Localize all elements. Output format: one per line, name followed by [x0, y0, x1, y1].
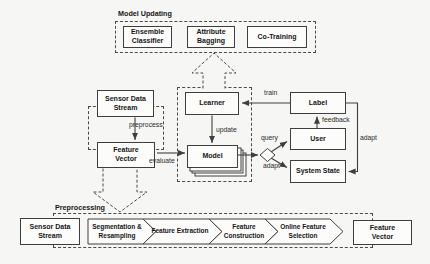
adapt-right-label: adapt	[360, 134, 377, 141]
flow-diagram: Model Updating Preprocessing Ensemble Cl…	[0, 0, 430, 264]
evaluate-label: evaluate	[149, 157, 175, 164]
query-arrow	[271, 142, 287, 153]
stage-label-construction: Feature Construction	[216, 219, 272, 244]
stage-label-segmentation: Segmentation & Resampling	[90, 219, 144, 244]
query-label: query	[261, 134, 278, 141]
adapt-right-line	[346, 103, 358, 172]
model-updating-flow-arrow	[192, 53, 236, 89]
feedback-label: feedback	[322, 116, 350, 123]
sensor-data-stream-bottom-box: Sensor Data Stream	[20, 218, 80, 245]
update-label: update	[216, 126, 237, 133]
learner-box: Learner	[185, 92, 239, 115]
model-updating-title: Model Updating	[118, 9, 172, 18]
co-training-box: Co-Training	[247, 26, 307, 48]
system-state-box: System State	[290, 160, 346, 183]
preprocessing-title: Preprocessing	[55, 203, 105, 212]
preprocess-label: preprocess	[129, 121, 163, 128]
train-label: train	[264, 89, 277, 96]
user-box: User	[290, 128, 346, 150]
stage-label-selection: Online Feature Selection	[272, 219, 334, 244]
ensemble-classifier-box: Ensemble Classifier	[123, 26, 172, 48]
stage-label-extraction: Feature Extraction	[150, 219, 210, 244]
sensor-data-stream-box: Sensor Data Stream	[97, 90, 154, 117]
model-box: Model	[187, 145, 238, 168]
feature-vector-box: Feature Vector	[97, 142, 155, 168]
feature-vector-bottom-box: Feature Vector	[353, 220, 412, 245]
attribute-bagging-box: Attribute Bagging	[187, 26, 235, 48]
adapt-lower-label: adapt	[263, 162, 280, 169]
label-box: Label	[290, 92, 346, 114]
